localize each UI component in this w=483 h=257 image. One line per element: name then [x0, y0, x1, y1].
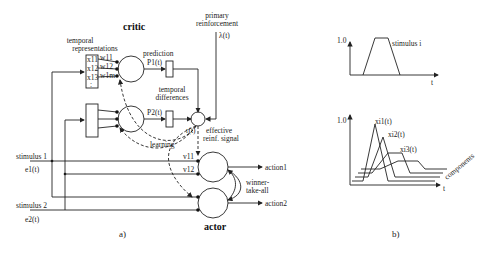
- temporal-rep-box-2: [86, 104, 98, 137]
- e1-label: e1(t): [25, 165, 40, 174]
- critic-title: critic: [123, 21, 146, 32]
- effective-label-2: reinf. signal: [203, 134, 239, 143]
- prediction-label: prediction: [143, 49, 174, 58]
- critic-neuron-2: [118, 106, 144, 132]
- w11-label: w11: [100, 53, 113, 62]
- components-label: components: [443, 151, 477, 181]
- x11-label: x11: [87, 55, 98, 64]
- x12-label: x12: [87, 64, 99, 73]
- stimulus2-label: stimulus 2: [16, 201, 47, 210]
- td-summation-node: [191, 112, 205, 126]
- panel-a-label: a): [119, 229, 126, 239]
- action2-label: action2: [265, 199, 287, 208]
- delay-box-2: [166, 111, 173, 127]
- xi3-label: xi3(t): [400, 145, 417, 154]
- xi2-label: xi2(t): [388, 130, 405, 139]
- winner-label-2: take-all: [246, 186, 269, 195]
- lambda-label: λ(t): [219, 31, 230, 40]
- w12-label: w12: [100, 62, 113, 71]
- temporal-rep-label-2: representations: [72, 44, 117, 53]
- p1-label: P1(t): [147, 58, 163, 67]
- bottom-t-label: t: [443, 184, 446, 193]
- top-t-label: t: [431, 78, 434, 87]
- actor-critic-diagram: critic temporal representations x11 x12 …: [0, 0, 483, 257]
- bottom-y-label: 1.0: [337, 116, 347, 125]
- primary-reinf-label-2: reinforcement: [196, 19, 239, 28]
- top-y-label: 1.0: [337, 36, 347, 45]
- learning-label: learning: [150, 140, 175, 149]
- e2-label: e2(t): [25, 215, 40, 224]
- stimulus1-label: stimulus 1: [16, 152, 47, 161]
- critic-neuron-1: [118, 56, 144, 82]
- actor-title: actor: [204, 221, 227, 232]
- v12-label: v12: [183, 165, 195, 174]
- x-dots-label: :: [90, 80, 92, 89]
- action1-label: action1: [265, 163, 287, 172]
- actor-neuron-1: [198, 152, 228, 182]
- stimulus-i-label: stimulus i: [392, 39, 421, 48]
- temporal-diff-label-2: differences: [155, 93, 188, 102]
- x13-label: x13: [87, 73, 99, 82]
- panel-b-label: b): [392, 229, 400, 239]
- v11-label: v11: [183, 152, 194, 161]
- actor-neuron-2: [198, 188, 228, 218]
- p2-label: P2(t): [147, 108, 163, 117]
- delay-box-1: [166, 61, 173, 77]
- w1m-label: w1m: [100, 71, 115, 80]
- xi1-label: xi1(t): [375, 117, 392, 126]
